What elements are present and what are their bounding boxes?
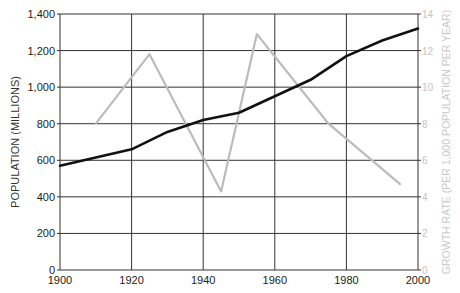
growth-rate-line <box>96 34 400 191</box>
population-growth-chart: 02004006008001,0001,2001,400 02468101214… <box>0 0 460 293</box>
population-line <box>60 29 418 166</box>
x-tick-label: 2000 <box>406 274 430 286</box>
left-tick-label: 400 <box>37 191 55 203</box>
left-tick-label: 800 <box>37 118 55 130</box>
left-tick-label: 600 <box>37 154 55 166</box>
grid-lines <box>57 14 421 270</box>
left-tick-label: 1,400 <box>27 8 55 20</box>
left-tick-label: 200 <box>37 227 55 239</box>
left-axis-ticks: 02004006008001,0001,2001,400 <box>27 8 55 276</box>
right-tick-label: 4 <box>422 192 428 203</box>
population-series <box>60 29 418 166</box>
x-tick-label: 1940 <box>191 274 215 286</box>
x-tick-label: 1920 <box>119 274 143 286</box>
left-axis-label: POPULATION (MILLIONS) <box>9 76 21 208</box>
right-tick-label: 10 <box>422 82 434 93</box>
right-axis-label: GROWTH RATE (PER 1,000 POPULATION PER YE… <box>440 10 452 274</box>
right-tick-label: 8 <box>422 119 428 130</box>
left-tick-label: 1,000 <box>27 81 55 93</box>
right-tick-label: 14 <box>422 9 434 20</box>
x-tick-label: 1960 <box>263 274 287 286</box>
x-tick-label: 1900 <box>48 274 72 286</box>
left-tick-label: 1,200 <box>27 45 55 57</box>
x-tick-label: 1980 <box>334 274 358 286</box>
right-tick-label: 12 <box>422 46 434 57</box>
right-tick-label: 6 <box>422 155 428 166</box>
growth-rate-series <box>96 34 400 191</box>
right-tick-label: 2 <box>422 228 428 239</box>
right-axis-ticks: 02468101214 <box>422 9 434 276</box>
x-axis-ticks: 190019201940196019802000 <box>48 274 430 286</box>
